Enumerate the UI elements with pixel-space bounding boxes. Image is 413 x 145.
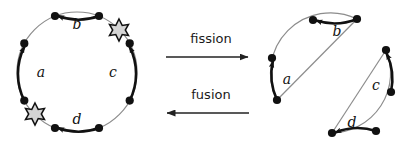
cycle-arc-label-a: a xyxy=(37,64,45,80)
cycle-node xyxy=(20,97,28,105)
piece-node xyxy=(382,46,390,54)
piece-arc-label-a: a xyxy=(283,71,291,87)
piece-node xyxy=(353,15,361,23)
cycle-node xyxy=(95,12,103,20)
piece-upper-left: a b xyxy=(268,13,361,104)
piece-arc-label-c: c xyxy=(372,77,380,93)
cycle-node xyxy=(51,12,59,20)
right-panel-fissioned-arcs: a b c d xyxy=(268,13,395,137)
piece-node xyxy=(309,16,317,24)
cycle-arc-d xyxy=(58,128,99,132)
cycle-node xyxy=(126,39,134,47)
cycle-arc-label-d: d xyxy=(73,111,82,127)
fission-label: fission xyxy=(190,31,232,46)
fission-fusion-diagram: a b c d fission fusion a b xyxy=(0,0,413,145)
operation-fission: fission xyxy=(166,31,248,57)
piece-node xyxy=(268,54,276,62)
piece-arc-label-b: b xyxy=(333,23,342,39)
cycle-node xyxy=(20,39,28,47)
cycle-arc-label-c: c xyxy=(109,64,117,80)
piece-lower-right: c d xyxy=(328,46,395,137)
piece-arc-label-d: d xyxy=(348,114,357,130)
fusion-label: fusion xyxy=(191,87,230,102)
piece-arc-a xyxy=(271,62,277,101)
left-panel-fused-cycle: a b c d xyxy=(17,12,137,132)
piece-node xyxy=(372,127,380,135)
cycle-node xyxy=(51,124,59,132)
piece-node xyxy=(328,129,336,137)
piece-upper-left-chord xyxy=(277,19,357,100)
piece-node xyxy=(387,88,395,96)
piece-node xyxy=(273,96,281,104)
cycle-node xyxy=(126,97,134,105)
operation-fusion: fusion xyxy=(167,87,249,113)
cycle-arc-label-b: b xyxy=(73,16,82,32)
cycle-node xyxy=(95,124,103,132)
